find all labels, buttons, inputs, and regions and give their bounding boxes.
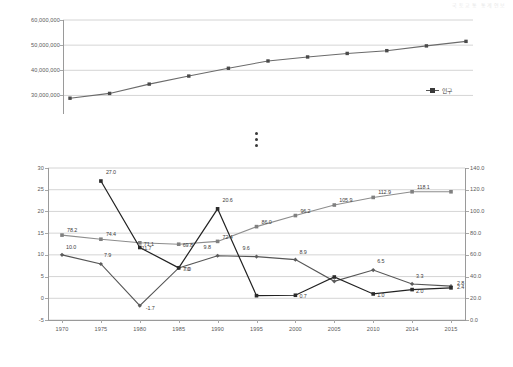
economy-right-tickmark [466, 168, 469, 169]
economy-markers [60, 179, 453, 308]
legend-label-population: 인구 [442, 86, 452, 95]
data-point-label: 7.0 [184, 266, 191, 272]
population-series-svg [63, 20, 473, 108]
data-point-label: 20.6 [223, 197, 233, 203]
economy-left-y-tick: 5 [22, 273, 44, 279]
economy-x-tickmark [451, 320, 452, 323]
data-point-label: 86.0 [262, 219, 272, 225]
economy-right-y-tick: 100.0 [470, 208, 485, 214]
land-price-line [101, 181, 451, 296]
data-point-label: 9.8 [204, 244, 211, 250]
economy-x-tickmark [218, 320, 219, 323]
economy-right-tickmark [466, 211, 469, 212]
economy-x-tick-label: 2010 [358, 326, 388, 332]
economy-x-tick-label: 1990 [203, 326, 233, 332]
economy-x-tickmark [295, 320, 296, 323]
data-point-label: 78.2 [67, 227, 77, 233]
economy-left-y-tick: 0 [22, 295, 44, 301]
data-point-label: 9.6 [243, 245, 250, 251]
population-y-tick: 30,000,000 [8, 92, 60, 98]
population-y-tick: 60,000,000 [8, 17, 60, 23]
economy-x-tick-label: 1995 [242, 326, 272, 332]
data-point-label: 7.9 [104, 252, 111, 258]
data-point-label: 96.2 [300, 208, 310, 214]
data-point-label: 3.3 [416, 273, 423, 279]
population-y-tick: 40,000,000 [8, 67, 60, 73]
economy-plot-area: 10.07.9-1.77.09.89.68.96.53.32.827.011.7… [48, 168, 465, 320]
economy-right-tickmark [466, 255, 469, 256]
economy-left-y-tick: -5 [22, 317, 44, 323]
economy-x-tick-label: 2014 [397, 326, 427, 332]
data-point-label: 8.9 [299, 249, 306, 255]
economy-left-y-tick: 10 [22, 251, 44, 257]
economy-right-y-tick: 120.0 [470, 186, 485, 192]
economy-x-tickmark [334, 320, 335, 323]
economy-chart: 10.07.9-1.77.09.89.68.96.53.32.827.011.7… [0, 158, 513, 358]
faint-page-header: 국토교통 통계연보 [452, 1, 507, 8]
square-marker-icon [430, 88, 435, 93]
economy-right-y-tick: 60.0 [470, 251, 481, 257]
economy-left-axis-line [48, 168, 49, 320]
population-markers [68, 40, 467, 100]
data-point-label: 0.7 [299, 293, 306, 299]
data-point-label: 6.5 [377, 258, 384, 264]
data-point-label: 10.0 [66, 244, 76, 250]
economy-series-svg [48, 168, 465, 320]
data-point-label: -1.7 [146, 305, 155, 311]
economy-x-tick-label: 2000 [280, 326, 310, 332]
data-point-label: 112.9 [378, 189, 391, 195]
economy-x-tickmark [412, 320, 413, 323]
population-y-axis-line [63, 20, 64, 114]
data-point-label: 118.1 [417, 184, 430, 190]
housing-supply-line [62, 192, 451, 244]
data-point-label: 2.0 [416, 288, 423, 294]
ellipsis-dot [255, 132, 258, 135]
economy-right-tickmark [466, 233, 469, 234]
data-point-label: 105.9 [339, 197, 352, 203]
economy-x-tick-label: 1970 [47, 326, 77, 332]
economy-x-tickmark [140, 320, 141, 323]
population-plot-area [63, 20, 473, 108]
ellipsis-dot [255, 144, 258, 147]
economy-right-y-tick: 0.0 [470, 317, 478, 323]
economy-right-tickmark [466, 298, 469, 299]
economy-x-tickmark [62, 320, 63, 323]
data-point-label: 69.8 [183, 242, 193, 248]
data-point-label: 1.0 [377, 292, 384, 298]
data-point-label: 2.4 [457, 284, 464, 290]
economy-x-tickmark [101, 320, 102, 323]
economy-right-axis-line [465, 168, 466, 320]
ellipsis-dot [255, 138, 258, 141]
population-legend: 인구 [426, 86, 452, 97]
vertical-ellipsis [0, 124, 513, 154]
population-chart: 30,000,00040,000,00050,000,00060,000,000… [0, 8, 513, 118]
economy-right-tickmark [466, 320, 469, 321]
economy-x-tick-label: 1975 [86, 326, 116, 332]
economy-x-tickmark [257, 320, 258, 323]
economy-left-y-tick: 30 [22, 165, 44, 171]
data-point-label: 74.4 [106, 231, 116, 237]
economy-x-tick-label: 2015 [436, 326, 466, 332]
economy-x-tickmark [179, 320, 180, 323]
economy-x-tick-label: 1985 [164, 326, 194, 332]
economy-right-y-tick: 40.0 [470, 273, 481, 279]
economy-x-tickmark [373, 320, 374, 323]
economy-left-y-tick: 25 [22, 186, 44, 192]
population-y-tick: 50,000,000 [8, 42, 60, 48]
economy-right-y-tick: 20.0 [470, 295, 481, 301]
economy-right-y-tick: 80.0 [470, 230, 481, 236]
legend-line-icon [426, 90, 439, 91]
population-line [70, 41, 466, 98]
economy-x-tick-label: 2005 [319, 326, 349, 332]
population-gridlines [63, 20, 473, 95]
economy-right-y-tick: 140.0 [470, 165, 485, 171]
legend-item-population: 인구 [426, 86, 452, 95]
economy-left-y-tick: 15 [22, 230, 44, 236]
data-point-label: 72.4 [223, 234, 233, 240]
economy-left-y-tick: 20 [22, 208, 44, 214]
economy-right-tickmark [466, 277, 469, 278]
data-point-label: 27.0 [106, 169, 116, 175]
economy-right-tickmark [466, 190, 469, 191]
economy-x-tick-label: 1980 [125, 326, 155, 332]
data-point-label: 71.1 [144, 241, 154, 247]
